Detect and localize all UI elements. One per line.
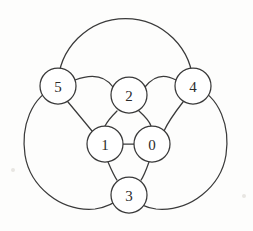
outer-arc-5-4-top [58,19,193,86]
nodes-group: 5 4 2 1 0 3 [40,68,211,213]
node-2-label: 2 [125,88,133,104]
edge-0-3 [141,162,149,180]
node-0[interactable]: 0 [134,126,170,162]
edge-2-0 [139,111,151,126]
node-3[interactable]: 3 [111,177,147,213]
node-1[interactable]: 1 [87,126,123,162]
edge-1-3 [108,162,117,180]
speck-icon [242,194,246,198]
node-5-label: 5 [54,79,62,95]
node-4[interactable]: 4 [175,68,211,104]
node-0-label: 0 [148,137,156,153]
node-5[interactable]: 5 [40,68,76,104]
node-1-label: 1 [101,137,109,153]
edge-4-0 [164,102,183,131]
edge-2-1 [105,111,117,126]
edge-2-4 [145,76,176,87]
edge-5-2 [75,76,113,87]
graph-diagram: 5 4 2 1 0 3 [0,0,253,231]
node-3-label: 3 [125,188,133,204]
speck-icon [11,168,15,172]
edge-5-1 [68,102,92,131]
node-4-label: 4 [189,79,197,95]
node-2[interactable]: 2 [111,77,147,113]
graph-canvas: 5 4 2 1 0 3 [0,0,253,231]
